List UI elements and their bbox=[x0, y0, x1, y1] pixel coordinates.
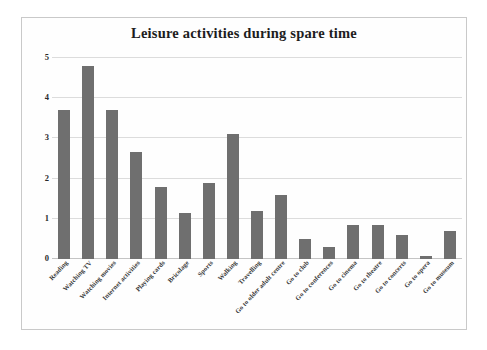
chart-frame: Leisure activities during spare time 012… bbox=[21, 17, 467, 330]
x-tick-label: Sports bbox=[196, 259, 214, 278]
bar-slot bbox=[341, 57, 365, 259]
chart-title: Leisure activities during spare time bbox=[22, 25, 466, 42]
bar-slot bbox=[197, 57, 221, 259]
bar[interactable] bbox=[251, 211, 263, 259]
x-tick-label: Go to older adult centre bbox=[234, 259, 287, 315]
bar-slot bbox=[76, 57, 100, 259]
bar[interactable] bbox=[323, 247, 335, 259]
plot-area: 012345 bbox=[38, 57, 462, 259]
bar-slot bbox=[100, 57, 124, 259]
bar-slot bbox=[366, 57, 390, 259]
bar-slot bbox=[245, 57, 269, 259]
bar-slot bbox=[173, 57, 197, 259]
bar-slot bbox=[148, 57, 172, 259]
bar[interactable] bbox=[155, 187, 167, 259]
bar[interactable] bbox=[444, 231, 456, 259]
bar[interactable] bbox=[203, 183, 215, 259]
bar[interactable] bbox=[106, 110, 118, 259]
x-tick-label: Walking bbox=[216, 259, 238, 282]
bar-series bbox=[52, 57, 462, 259]
bar-slot bbox=[317, 57, 341, 259]
x-axis-tick-labels: ReadingWatching TVWatching moviesInterne… bbox=[52, 259, 476, 329]
bar[interactable] bbox=[299, 239, 311, 259]
y-tick-label: 1 bbox=[38, 213, 49, 223]
y-tick-label: 0 bbox=[38, 253, 49, 263]
bar[interactable] bbox=[179, 213, 191, 259]
bar[interactable] bbox=[227, 134, 239, 259]
bar-slot bbox=[221, 57, 245, 259]
y-tick-label: 3 bbox=[38, 132, 49, 142]
x-tick-label: Reading bbox=[48, 259, 70, 281]
x-tick-label: Bricolage bbox=[166, 259, 190, 284]
bar[interactable] bbox=[82, 66, 94, 259]
bar[interactable] bbox=[347, 225, 359, 259]
bar-slot bbox=[124, 57, 148, 259]
bar-slot bbox=[293, 57, 317, 259]
bar[interactable] bbox=[396, 235, 408, 259]
bar[interactable] bbox=[58, 110, 70, 259]
bar[interactable] bbox=[275, 195, 287, 259]
bar-slot bbox=[438, 57, 462, 259]
bar[interactable] bbox=[372, 225, 384, 259]
y-tick-label: 5 bbox=[38, 52, 49, 62]
bar-slot bbox=[390, 57, 414, 259]
y-tick-label: 4 bbox=[38, 92, 49, 102]
bar-slot bbox=[414, 57, 438, 259]
y-tick-label: 2 bbox=[38, 173, 49, 183]
bar-slot bbox=[52, 57, 76, 259]
bar-slot bbox=[269, 57, 293, 259]
bar[interactable] bbox=[130, 152, 142, 259]
